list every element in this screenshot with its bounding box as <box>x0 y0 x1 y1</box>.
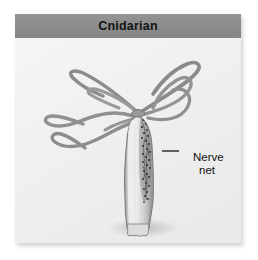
panel-header: Cnidarian <box>15 14 241 38</box>
label-nerve-net: Nerve net <box>193 151 241 177</box>
tentacle-group <box>46 63 200 148</box>
label-nerve-net-line-2: net <box>193 164 241 177</box>
panel-body: Nerve net <box>15 38 241 243</box>
hypostome <box>131 110 145 118</box>
cnidarian-illustration <box>15 38 241 243</box>
pedal-disc <box>127 224 149 236</box>
label-nerve-net-line-1: Nerve <box>193 151 241 164</box>
figure-panel: Cnidarian <box>15 14 241 243</box>
panel-title: Cnidarian <box>98 19 157 33</box>
